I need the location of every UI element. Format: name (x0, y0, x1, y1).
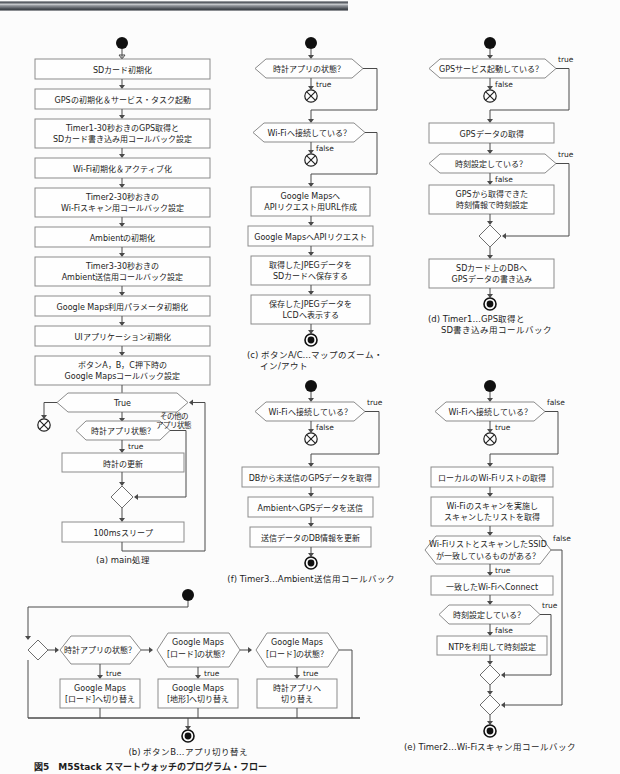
action-node-a8-label: Google Maps利用パラメータ初期化 (57, 302, 189, 312)
action-node-a10-label-line2: Google Mapsコールバック設定 (65, 371, 181, 381)
action-node-c3-label-line1: 取得したJPEGデータを (269, 260, 351, 270)
end-node-d-inner (487, 301, 494, 308)
action-node-e2-label-line1: Wi-Fiのスキャンを実施し (446, 501, 537, 511)
action-node-a-clockupdate-label: 時計の更新 (103, 459, 143, 469)
action-node-a9-label: UIアプリケーション初期化 (74, 332, 170, 342)
decision-node-c1-label: 時計アプリの状態？ (273, 64, 345, 74)
edge-label-b2-true: true (204, 669, 220, 678)
action-node-b2-label-line1: Google Maps (172, 684, 224, 693)
action-node-a3-label-line1: Timer1-30秒おきのGPS取得と (65, 123, 179, 133)
edge-label-e3-true: true (542, 601, 558, 610)
action-node-a-sleep-label: 100msスリープ (93, 529, 152, 538)
decision-node-d2-label: 時刻設定している？ (455, 159, 527, 169)
start-node-e (484, 380, 496, 392)
merge-node-e2 (480, 695, 500, 715)
decision-node-b2-label-line2: [ロード]の状態？ (167, 649, 229, 659)
decision-node-b1-label: 時計アプリの状態？ (64, 645, 136, 655)
edge-label-d1-false: false (495, 80, 513, 89)
edge-label-e1-false: false (547, 398, 565, 407)
start-node-c (305, 37, 317, 49)
action-node-a4-label: Wi-Fi初期化＆アクティブ化 (73, 164, 172, 174)
decision-node-b3-label-line2: [ロード]の状態？ (266, 649, 328, 659)
action-node-a5-label-line2: Wi-Fiスキャン用コールバック設定 (61, 203, 184, 213)
action-node-c1-label-line1: Google Mapsへ (281, 192, 341, 201)
panel-f-caption: (f) Timer3…Ambient送信用コールバック (227, 574, 394, 584)
start-node-a (116, 37, 128, 49)
panel-a-caption: (a) main処理 (96, 555, 150, 565)
decision-node-e2-label-line2: が一致しているものがある？ (436, 551, 540, 561)
action-node-c1-label-line2: APIリクエスト用URL作成 (264, 202, 357, 212)
decision-node-e3-label: 時刻設定している？ (453, 610, 525, 620)
panel-d-caption-line2: SD書き込み用コールバック (441, 325, 552, 335)
edge-label-a-other-line1: その他の (160, 411, 188, 421)
edge-label-a-other-line2: アプリ状態 (156, 420, 192, 430)
flowchart-svg: SDカード初期化 GPSの初期化＆サービス・タスク起動 Timer1-30秒おき… (0, 0, 620, 774)
figure-caption: 図5 M5Stack スマートウォッチのプログラム・フロー (34, 761, 267, 772)
decision-node-a-clockstate-label: 時計アプリ状態？ (91, 426, 155, 436)
action-node-b1-label-line2: [ロード]へ切り替え (65, 694, 135, 704)
action-node-b3-label-line2: 切り替え (281, 694, 313, 704)
panel-c-caption-line1: (c) ボタンA/C…マップのズーム・ (247, 350, 383, 360)
action-node-a2-label: GPSの初期化＆サービス・タスク起動 (54, 95, 190, 105)
end-node-b-inner (185, 733, 192, 740)
action-node-a7-label-line2: Ambient送信用コールバック設定 (62, 272, 184, 282)
end-node-f-inner (308, 560, 315, 567)
action-node-d3-label-line2: GPSデータの書き込み (451, 274, 531, 284)
panel-a-main: SDカード初期化 GPSの初期化＆サービス・タスク起動 Timer1-30秒おき… (35, 37, 210, 565)
action-node-a5-label-line1: Timer2-30秒おきの (85, 192, 159, 202)
edge-label-e3-false: false (495, 626, 513, 635)
action-node-d1-label: GPSデータの取得 (459, 129, 523, 139)
panel-d-caption-line1: (d) Timer1…GPS取得と (428, 314, 525, 324)
edge-label-d1-true: true (558, 55, 574, 64)
action-node-c4-label-line1: 保存したJPEGデータを (269, 299, 351, 309)
action-node-b3-label-line1: 時計アプリへ (273, 683, 321, 693)
start-node-b (182, 589, 194, 601)
start-node-f (305, 380, 317, 392)
merge-node-d (479, 225, 501, 247)
action-node-b2-label-line2: [地形]へ切り替え (167, 694, 229, 704)
action-node-f1-label: DBから未送信のGPSデータを取得 (249, 473, 373, 483)
edge-label-b1-true: true (106, 669, 122, 678)
action-node-c3-label-line2: SDカードへ保存する (273, 271, 348, 281)
action-node-a1-label: SDカード初期化 (93, 65, 152, 75)
action-node-b1-label-line1: Google Maps (74, 684, 126, 693)
decision-node-a-true-label: True (113, 399, 131, 408)
panel-d-timer1: GPSサービス起動している？ true false GPSデータの取得 時刻設定… (428, 37, 574, 335)
panel-b-caption: (b) ボタンB…アプリ切り替え (128, 747, 247, 757)
decision-node-f1-label: Wi-Fiへ接続している？ (268, 407, 351, 417)
decision-node-c2-label: Wi-Fiへ接続している？ (267, 128, 350, 138)
edge-label-d2-false: false (495, 175, 513, 184)
action-node-e4-label: NTPを利用して時刻設定 (448, 642, 536, 652)
panel-c-buttonac: 時計アプリの状態？ true Wi-Fiへ接続している？ false Googl… (247, 37, 383, 371)
action-node-a6-label: Ambientの初期化 (90, 233, 156, 243)
action-node-c2-label: Google MapsへAPIリクエスト (254, 233, 366, 242)
panel-e-caption: (e) Timer2…Wi-Fiスキャン用コールバック (404, 742, 576, 752)
edge-label-d2-true: true (558, 150, 574, 159)
figure-page: SDカード初期化 GPSの初期化＆サービス・タスク起動 Timer1-30秒おき… (0, 0, 620, 774)
edge-label-c1-true: true (316, 80, 332, 89)
edge-label-e2-true: true (495, 566, 511, 575)
merge-node-a (111, 486, 133, 508)
edge-label-a-true: true (128, 442, 144, 451)
action-node-f3-label: 送信データのDB情報を更新 (261, 533, 361, 543)
edge-label-f-false: false (316, 423, 334, 432)
action-node-d3-label-line1: SDカード上のDBへ (456, 264, 527, 273)
edge-label-f-true: true (367, 398, 383, 407)
action-node-d2-label-line1: GPSから取得できた (455, 189, 527, 199)
panel-b-buttonb: 時計アプリの状態？ true Google Maps [ロード]へ切り替え Go… (25, 589, 360, 757)
edge-label-e1-true: true (495, 423, 511, 432)
action-node-c4-label-line2: LCDへ表示する (282, 310, 338, 320)
decision-node-b3-label-line1: Google Maps (271, 638, 323, 647)
action-node-e2-label-line2: スキャンしたリストを取得 (444, 512, 540, 522)
decision-node-d1-label: GPSサービス起動している？ (439, 65, 543, 74)
merge-node-b (28, 640, 48, 660)
end-node-e-inner (487, 728, 494, 735)
decision-node-e1-label: Wi-Fiへ接続している？ (448, 407, 531, 417)
action-node-a10-label-line1: ボタンA，B，C押下時の (78, 360, 167, 370)
edge-label-b3-true: true (303, 669, 319, 678)
end-node-c-inner (308, 337, 315, 344)
action-node-e1-label: ローカルのWi-Fiリストの取得 (438, 473, 545, 483)
decision-node-b2-label-line1: Google Maps (172, 638, 224, 647)
panel-c-caption-line2: イン/アウト (260, 361, 308, 371)
merge-node-e1 (480, 665, 500, 685)
